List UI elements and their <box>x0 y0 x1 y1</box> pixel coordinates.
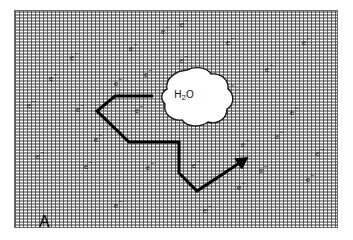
electron-label: e− <box>135 107 144 115</box>
electron-label: e− <box>161 28 170 36</box>
electron-label: e− <box>180 57 189 65</box>
electron-label: e− <box>241 141 250 149</box>
electron-label: e− <box>76 106 85 114</box>
electron-track <box>15 11 338 228</box>
electron-label: e− <box>265 66 274 74</box>
electron-label: e− <box>203 207 212 215</box>
electron-label: e− <box>27 102 36 110</box>
panel-label: A <box>39 214 50 228</box>
electron-label: e− <box>129 45 138 53</box>
blob-outline <box>162 68 233 126</box>
electron-label: e− <box>114 202 123 210</box>
electron-label: e− <box>259 167 268 175</box>
water-formula-label: H2O <box>174 90 193 103</box>
electron-label: e− <box>306 176 315 184</box>
electron-label: e− <box>237 184 246 192</box>
figure-panel-a: e−e−e−e−e−e−e−e−e−e−e−e−e−e−e−e−e−e−e−e−… <box>0 0 353 240</box>
stippled-medium-region: e−e−e−e−e−e−e−e−e−e−e−e−e−e−e−e−e−e−e−e−… <box>14 10 338 228</box>
electron-label: e− <box>316 150 325 158</box>
electron-label: e− <box>302 39 311 47</box>
electron-label: e− <box>275 133 284 141</box>
electron-label: e− <box>290 109 299 117</box>
electron-label: e− <box>49 75 58 83</box>
electron-label: e− <box>144 71 153 79</box>
electron-label: e− <box>36 153 45 161</box>
water-o: O <box>186 89 194 100</box>
electron-label: e− <box>192 162 201 170</box>
water-molecule-blob <box>15 11 338 228</box>
electron-label: e− <box>226 39 235 47</box>
electron-label: e− <box>84 163 93 171</box>
electron-label: e− <box>216 109 225 117</box>
electron-label: e− <box>226 86 235 94</box>
electron-label: e− <box>180 21 189 29</box>
electron-label: e− <box>94 136 103 144</box>
electron-label: e− <box>114 80 123 88</box>
electron-label: e− <box>146 164 155 172</box>
electron-label: e− <box>70 54 79 62</box>
